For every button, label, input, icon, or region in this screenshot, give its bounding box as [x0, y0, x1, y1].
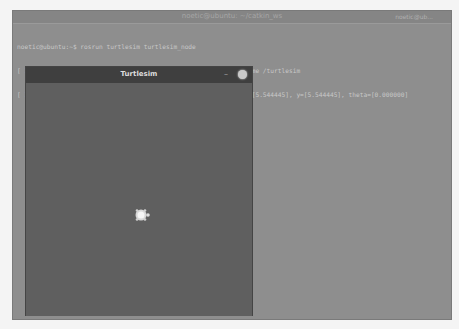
close-button[interactable] — [238, 70, 247, 79]
turtle-icon — [132, 207, 152, 223]
terminal-titlebar[interactable]: noetic@ubuntu: ~/catkin_ws noetic@ub... — [13, 11, 451, 24]
turtlesim-titlebar[interactable]: Turtlesim – — [26, 67, 252, 83]
turtlesim-window[interactable]: Turtlesim – — [25, 66, 253, 316]
minimize-button[interactable]: – — [222, 70, 230, 80]
terminal-line-command: noetic@ubuntu:~$ rosrun turtlesim turtle… — [17, 43, 449, 51]
terminal-user-label: noetic@ub... — [395, 13, 433, 20]
turtlesim-canvas — [26, 83, 252, 316]
turtlesim-title: Turtlesim — [26, 70, 252, 78]
terminal-title: noetic@ubuntu: ~/catkin_ws — [13, 12, 451, 20]
